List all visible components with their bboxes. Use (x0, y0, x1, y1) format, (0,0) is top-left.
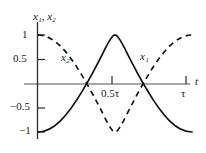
plot-canvas (0, 0, 206, 153)
x-tick-label-half-tau: 0.5τ (101, 88, 119, 99)
y-tick-label-neg-0-5: −0.5 (10, 101, 30, 112)
y-axis-label: x₁, x₂ (33, 11, 56, 22)
x-tick-label-tau: τ (181, 88, 185, 99)
y-tick-label-neg-1: −1 (19, 125, 31, 136)
figure-container: x₁, x₂ 1 0.5 −0.5 −1 0.5τ τ t x₂ x₁ (0, 0, 206, 153)
y-tick-label-0-5: 0.5 (13, 53, 27, 64)
curve-label-x2: x₂ (61, 52, 70, 63)
curve-label-x1: x₁ (140, 51, 149, 62)
y-axis-label-text: x₁, x₂ (33, 10, 56, 22)
x-axis-label: t (195, 76, 198, 87)
y-tick-label-1: 1 (22, 29, 28, 40)
